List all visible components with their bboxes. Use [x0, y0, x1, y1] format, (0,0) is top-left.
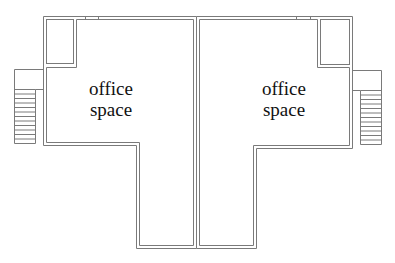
right-label-line1: office	[244, 78, 324, 99]
left-unit-inner-wall	[47, 20, 194, 246]
right-closet	[321, 20, 350, 65]
right-label-line2: space	[244, 99, 324, 120]
left-label-line1: office	[71, 78, 151, 99]
left-closet	[47, 20, 74, 64]
right-unit-inner-wall	[200, 20, 350, 246]
right-stair	[353, 71, 382, 145]
right-unit-label: office space	[244, 78, 324, 120]
left-stair	[15, 70, 44, 144]
floor-plan	[0, 0, 395, 263]
left-label-line2: space	[71, 99, 151, 120]
right-unit-outer-wall	[197, 17, 353, 249]
left-unit-label: office space	[71, 78, 151, 120]
left-unit-outer-wall	[44, 17, 197, 249]
